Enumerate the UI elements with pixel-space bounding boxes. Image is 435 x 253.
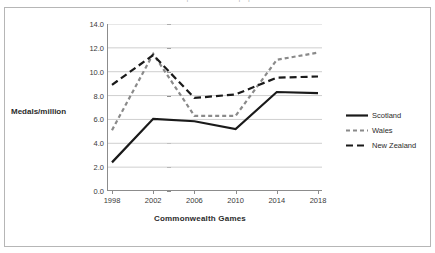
y-tick-label: 12.0 xyxy=(68,43,104,52)
x-tick-mark xyxy=(318,190,319,194)
x-tick-label: 2002 xyxy=(145,196,162,205)
y-tick-label: 0.0 xyxy=(68,187,104,196)
x-tick-label: 2010 xyxy=(227,196,244,205)
legend-label: Scotland xyxy=(372,111,401,120)
x-tick-label: 2014 xyxy=(268,196,285,205)
plot-area xyxy=(108,24,322,191)
x-tick-mark xyxy=(112,190,113,194)
y-axis-title: Medals/million xyxy=(11,107,66,116)
x-tick-mark xyxy=(194,190,195,194)
x-axis-title: Commonwealth Games xyxy=(0,214,400,223)
series-lines xyxy=(108,24,322,191)
y-tick-label: 14.0 xyxy=(68,20,104,29)
y-tick-label: 8.0 xyxy=(68,91,104,100)
legend-label: Wales xyxy=(372,126,393,135)
y-tick-label: 4.0 xyxy=(68,139,104,148)
series-line-scotland xyxy=(112,92,318,162)
y-tick-label: 10.0 xyxy=(68,67,104,76)
legend-swatch-icon xyxy=(346,126,368,135)
x-tick-label: 1998 xyxy=(104,196,121,205)
x-tick-mark xyxy=(153,190,154,194)
y-tick-label: 2.0 xyxy=(68,163,104,172)
legend-swatch-icon xyxy=(346,141,368,150)
chart-legend: ScotlandWalesNew Zealand xyxy=(346,108,434,153)
x-tick-label: 2018 xyxy=(310,196,327,205)
legend-label: New Zealand xyxy=(372,141,416,150)
legend-swatch-icon xyxy=(346,111,368,120)
legend-item-new-zealand[interactable]: New Zealand xyxy=(346,138,434,153)
x-tick-mark xyxy=(277,190,278,194)
legend-item-wales[interactable]: Wales xyxy=(346,123,434,138)
x-tick-label: 2006 xyxy=(186,196,203,205)
legend-item-scotland[interactable]: Scotland xyxy=(346,108,434,123)
chart-screenshot: Medals per million of population 0.02.04… xyxy=(0,0,435,253)
y-tick-mark xyxy=(167,191,171,192)
y-tick-label: 6.0 xyxy=(68,115,104,124)
x-tick-mark xyxy=(236,190,237,194)
